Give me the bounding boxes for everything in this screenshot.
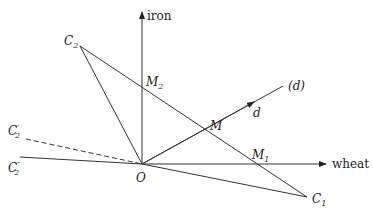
iron-axis-label: iron xyxy=(147,9,172,23)
label-c2-double-prime: C″2 xyxy=(8,160,20,177)
label-m2: M2 xyxy=(145,75,163,91)
line-c2-o xyxy=(80,46,142,164)
label-o: O xyxy=(136,171,146,185)
label-m: M xyxy=(209,119,223,133)
label-c2: C2 xyxy=(64,34,78,50)
wheat-axis-label: wheat xyxy=(332,157,369,171)
diagram-canvas: iron wheat O C2 M2 M d (d) M1 C1 C′2 C″2 xyxy=(0,0,373,220)
label-d-arrow: d xyxy=(253,106,261,120)
label-line-d: (d) xyxy=(288,79,305,93)
direction-d-arrow xyxy=(142,102,254,164)
label-c1: C1 xyxy=(312,192,326,208)
label-m1: M1 xyxy=(251,148,269,164)
label-c2-prime: C′2 xyxy=(8,123,20,140)
